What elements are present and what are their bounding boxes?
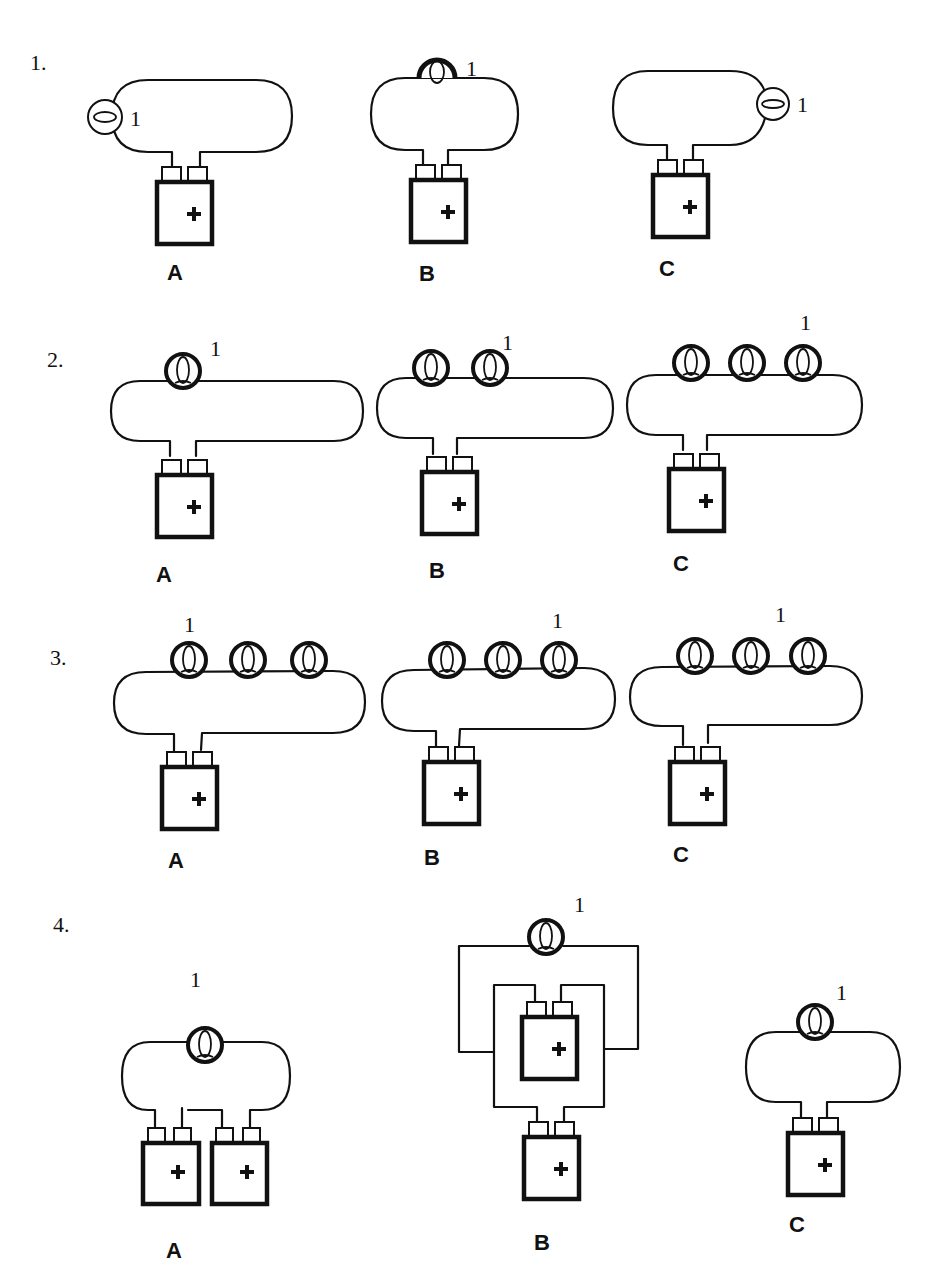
battery-icon bbox=[162, 752, 217, 829]
question-number: 3. bbox=[50, 645, 67, 670]
bulb-label: 1 bbox=[190, 967, 201, 992]
option-label: C bbox=[789, 1212, 805, 1237]
battery-icon bbox=[422, 457, 477, 534]
bulb-icon bbox=[188, 1028, 222, 1062]
bulb-icon bbox=[730, 346, 764, 380]
option-label: A bbox=[168, 848, 184, 873]
bulb-icon bbox=[166, 354, 200, 388]
bulb-label: 1 bbox=[800, 310, 811, 335]
option-3b-circuit[interactable]: 1 B bbox=[382, 608, 615, 870]
bulb-label: 1 bbox=[574, 892, 585, 917]
option-1a-circuit[interactable]: 1 A bbox=[88, 80, 292, 285]
option-label: C bbox=[673, 842, 689, 867]
question-4: 4. 1 A bbox=[53, 892, 900, 1263]
battery-icon bbox=[524, 1122, 579, 1199]
option-label: C bbox=[673, 551, 689, 576]
battery-icon bbox=[670, 747, 725, 824]
battery-icon bbox=[212, 1128, 267, 1204]
bulb-icon bbox=[419, 60, 455, 83]
battery-icon bbox=[157, 167, 212, 244]
bulb-icon bbox=[757, 88, 789, 120]
battery-icon bbox=[157, 460, 212, 537]
bulb-icon bbox=[678, 639, 712, 673]
option-2b-circuit[interactable]: 1 B bbox=[377, 330, 613, 583]
question-number: 4. bbox=[53, 912, 70, 937]
option-label: A bbox=[156, 562, 172, 587]
bulb-icon bbox=[734, 639, 768, 673]
option-1c-circuit[interactable]: 1 C bbox=[613, 71, 808, 281]
bulb-icon bbox=[798, 1005, 832, 1039]
bulb-icon bbox=[292, 643, 326, 677]
bulb-icon bbox=[542, 643, 576, 677]
option-label: A bbox=[166, 1238, 182, 1263]
battery-icon bbox=[411, 165, 466, 242]
option-label: B bbox=[429, 558, 445, 583]
battery-icon bbox=[653, 160, 708, 237]
option-3c-circuit[interactable]: 1 C bbox=[630, 602, 862, 867]
circuit-worksheet: 1. 1 A 1 B bbox=[0, 0, 935, 1275]
bulb-icon bbox=[674, 346, 708, 380]
bulb-icon bbox=[786, 346, 820, 380]
bulb-icon bbox=[791, 639, 825, 673]
question-number: 1. bbox=[30, 50, 47, 75]
battery-icon bbox=[522, 1002, 577, 1079]
option-label: B bbox=[419, 261, 435, 286]
option-2c-circuit[interactable]: 1 C bbox=[627, 310, 862, 576]
bulb-label: 1 bbox=[552, 608, 563, 633]
option-4b-circuit[interactable]: 1 B bbox=[459, 892, 638, 1255]
option-label: B bbox=[534, 1230, 550, 1255]
option-4c-circuit[interactable]: 1 C bbox=[746, 980, 900, 1237]
option-label: A bbox=[167, 260, 183, 285]
bulb-label: 1 bbox=[184, 612, 195, 637]
bulb-icon bbox=[88, 100, 122, 134]
bulb-icon bbox=[414, 351, 448, 385]
battery-icon bbox=[424, 747, 479, 824]
question-3: 3. 1 A 1 B 1 C bbox=[50, 602, 862, 873]
bulb-label: 1 bbox=[775, 602, 786, 627]
battery-icon bbox=[143, 1128, 199, 1204]
option-3a-circuit[interactable]: 1 A bbox=[114, 612, 365, 873]
option-4a-circuit[interactable]: 1 A bbox=[122, 967, 290, 1263]
question-1: 1. 1 A 1 B bbox=[30, 50, 808, 286]
option-label: C bbox=[659, 256, 675, 281]
question-2: 2. 1 A 1 B 1 C bbox=[47, 310, 862, 587]
bulb-icon bbox=[430, 643, 464, 677]
bulb-icon bbox=[486, 643, 520, 677]
battery-icon bbox=[669, 454, 724, 531]
bulb-label: 1 bbox=[466, 56, 477, 81]
bulb-icon bbox=[473, 351, 507, 385]
bulb-icon bbox=[172, 643, 206, 677]
question-number: 2. bbox=[47, 347, 64, 372]
bulb-label: 1 bbox=[502, 330, 513, 355]
bulb-label: 1 bbox=[797, 92, 808, 117]
bulb-label: 1 bbox=[210, 336, 221, 361]
bulb-label: 1 bbox=[130, 106, 141, 131]
bulb-icon bbox=[231, 643, 265, 677]
battery-icon bbox=[788, 1118, 843, 1195]
bulb-label: 1 bbox=[836, 980, 847, 1005]
option-label: B bbox=[424, 845, 440, 870]
option-1b-circuit[interactable]: 1 B bbox=[371, 56, 518, 286]
option-2a-circuit[interactable]: 1 A bbox=[111, 336, 363, 587]
bulb-icon bbox=[529, 920, 563, 954]
